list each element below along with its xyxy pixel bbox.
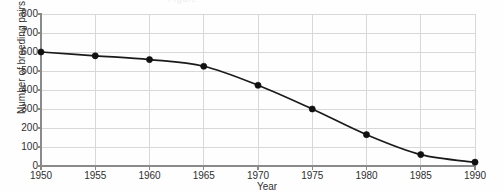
x-tick-label: 1975 (292, 170, 332, 181)
x-tick-label: 1985 (401, 170, 441, 181)
x-axis-title: Year (245, 181, 289, 192)
x-tick-label: 1950 (21, 170, 61, 181)
x-tick-label: 1980 (347, 170, 387, 181)
x-tick-label: 1960 (130, 170, 170, 181)
chart-figure: Figure Number of breeding pairs 01002003… (0, 0, 504, 193)
x-tick-label: 1955 (75, 170, 115, 181)
x-tick-label: 1990 (455, 170, 495, 181)
x-tick-label: 1965 (184, 170, 224, 181)
x-axis-tick-labels: 195019551960196519701975198019851990 (0, 0, 504, 193)
x-tick-label: 1970 (238, 170, 278, 181)
